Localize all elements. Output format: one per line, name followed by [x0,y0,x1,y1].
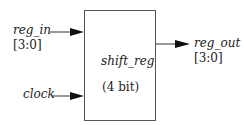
reg-out-label: reg_out [194,37,240,50]
reg-in-arrow [50,28,84,36]
reg-in-bus-label: [3:0] [13,39,42,52]
clock-arrow [52,92,84,100]
reg-out-bus-label: [3:0] [194,52,223,65]
block-width-label: (4 bit) [102,81,139,94]
block-name-label: shift_reg [101,55,155,68]
reg-in-label: reg_in [13,24,51,37]
clock-label: clock [23,88,55,101]
reg-out-arrow [156,40,190,48]
